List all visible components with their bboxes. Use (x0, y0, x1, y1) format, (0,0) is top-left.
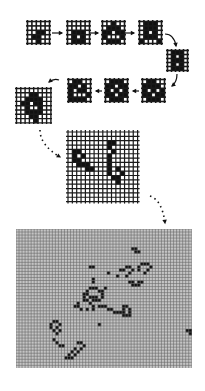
arrow-7-8-arrow-icon (95, 89, 102, 93)
arrow-2-3-arrow-icon (90, 31, 99, 35)
arrow-9-10-arrow-icon (40, 130, 61, 158)
arrow-5-6-arrow-icon (171, 74, 177, 87)
arrows-layer (0, 0, 205, 391)
arrow-10-11-arrow-icon (150, 196, 167, 224)
arrow-3-4-arrow-icon (125, 31, 135, 35)
arrow-1-2-arrow-icon (52, 31, 63, 35)
arrow-4-5-arrow-icon (165, 34, 178, 47)
arrow-6-7-arrow-icon (132, 89, 139, 93)
arrow-8-9-arrow-icon (48, 78, 59, 82)
